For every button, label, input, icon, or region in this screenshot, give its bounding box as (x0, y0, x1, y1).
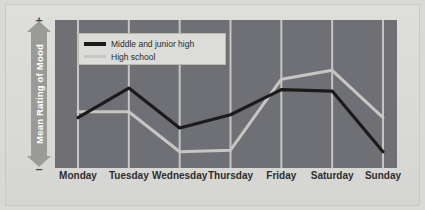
chart-legend: Middle and junior high High school (78, 33, 226, 65)
legend-swatch-high-school (84, 55, 106, 58)
x-axis-label-sunday: Sunday (365, 170, 401, 181)
y-axis-label: Mean Rating of Mood (34, 44, 45, 144)
plot-area: Middle and junior high High school (55, 20, 397, 168)
x-axis-label-wednesday: Wednesday (152, 170, 207, 181)
x-axis-labels: MondayTuesdayWednesdayThursdayFridaySatu… (55, 170, 397, 192)
legend-item-middle-junior-high: Middle and junior high (84, 37, 220, 50)
x-axis-label-monday: Monday (59, 170, 97, 181)
y-axis-arrow-body: Mean Rating of Mood (31, 30, 47, 158)
mood-line-chart-figure: + Mean Rating of Mood – Middle and junio… (0, 0, 425, 210)
x-axis-label-saturday: Saturday (311, 170, 354, 181)
x-axis-label-thursday: Thursday (208, 170, 253, 181)
legend-item-high-school: High school (84, 50, 220, 63)
x-axis-label-friday: Friday (266, 170, 296, 181)
legend-swatch-middle-junior-high (84, 42, 106, 46)
x-axis-label-tuesday: Tuesday (109, 170, 149, 181)
legend-label-middle-junior-high: Middle and junior high (111, 39, 194, 49)
y-axis: + Mean Rating of Mood – (24, 18, 54, 170)
legend-label-high-school: High school (111, 52, 155, 62)
y-axis-minus-symbol: – (24, 164, 54, 174)
